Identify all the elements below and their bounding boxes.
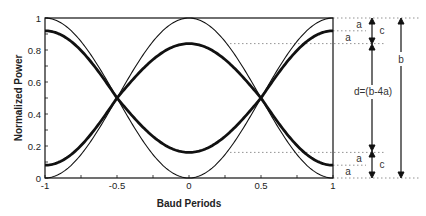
y-tick-label: 0.8 (28, 45, 41, 56)
y-tick-label: 1 (36, 13, 41, 24)
arrow-up-icon (369, 44, 375, 50)
label-a-top-1: a (356, 19, 362, 30)
x-tick-label: 0 (186, 180, 191, 191)
thick-curve-lower (45, 31, 333, 153)
x-axis-title: Baud Periods (157, 198, 222, 209)
arrow-down-icon (398, 172, 404, 178)
label-a-bottom-2: a (345, 166, 351, 177)
axis-ticks (45, 18, 333, 178)
plot-frame (45, 18, 333, 178)
label-a-bottom-1: a (356, 153, 362, 164)
arrow-up-icon (398, 18, 404, 24)
arrow-up-icon (369, 18, 375, 24)
y-tick-label: 0.6 (28, 77, 41, 88)
arrow-up-icon (369, 151, 375, 157)
x-tick-label: 1 (330, 180, 335, 191)
y-tick-label: 0.4 (28, 109, 41, 120)
y-axis-title: Normalized Power (13, 55, 24, 142)
y-tick-label: 0.2 (28, 141, 41, 152)
arrow-down-icon (369, 172, 375, 178)
x-tick-label: -0.5 (109, 180, 125, 191)
thin-curve-cos2 (45, 18, 333, 178)
label-a-top-2: a (345, 32, 351, 43)
label-c-top: c (380, 25, 385, 36)
label-b: b (398, 54, 404, 65)
thin-curve-sin2 (45, 18, 333, 178)
tick-labels: -1-0.500.5100.20.40.60.81 (28, 13, 336, 192)
label-c-bottom: c (380, 159, 385, 170)
x-tick-label: -1 (41, 180, 49, 191)
y-tick-label: 0 (36, 173, 41, 184)
power-chart: -1-0.500.5100.20.40.60.81 Baud Periods N… (0, 0, 426, 216)
x-tick-label: 0.5 (254, 180, 267, 191)
thick-curve-upper (45, 44, 333, 166)
curves (45, 18, 333, 178)
label-d: d=(b-4a) (354, 86, 392, 97)
